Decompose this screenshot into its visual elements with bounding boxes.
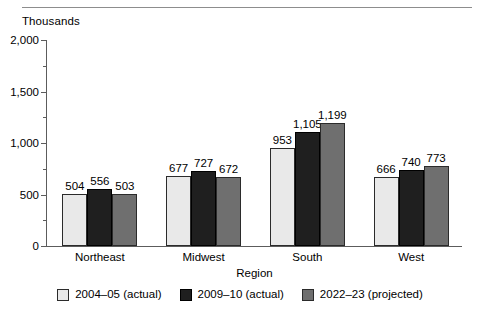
chart-legend: 2004–05 (actual)2009–10 (actual)2022–23 … bbox=[0, 288, 480, 301]
bar-value-label: 740 bbox=[402, 156, 421, 169]
y-tick-minor bbox=[43, 117, 47, 118]
x-axis-title: Region bbox=[47, 267, 462, 280]
category-label: Northeast bbox=[75, 250, 125, 264]
y-tick-major bbox=[41, 143, 47, 144]
category-label: West bbox=[398, 250, 424, 264]
bar[interactable]: 672 bbox=[216, 177, 241, 246]
legend-label: 2009–10 (actual) bbox=[198, 288, 284, 301]
legend-label: 2022–23 (projected) bbox=[320, 288, 423, 301]
x-axis-line bbox=[46, 246, 462, 247]
bar[interactable]: 727 bbox=[191, 171, 216, 246]
bar[interactable]: 773 bbox=[424, 166, 449, 246]
plot-area: 5045565036777276729531,1051,199666740773… bbox=[47, 40, 462, 246]
bar-value-label: 672 bbox=[219, 163, 238, 176]
y-tick-label: 1,000 bbox=[10, 137, 39, 149]
legend-item[interactable]: 2022–23 (projected) bbox=[302, 288, 423, 301]
bar-value-label: 953 bbox=[273, 134, 292, 147]
y-tick-label: 2,000 bbox=[10, 34, 39, 46]
y-tick-major bbox=[41, 195, 47, 196]
bar-group: 9531,1051,199 bbox=[270, 40, 345, 246]
y-tick-minor bbox=[43, 220, 47, 221]
y-tick-label: 500 bbox=[20, 189, 39, 201]
bar-group: 504556503 bbox=[62, 40, 137, 246]
top-divider-rule bbox=[22, 7, 472, 8]
legend-swatch-icon bbox=[302, 289, 314, 301]
category-label: Midwest bbox=[183, 250, 225, 264]
bar-value-label: 1,199 bbox=[318, 109, 347, 122]
y-tick-label: 0 bbox=[33, 240, 39, 252]
bar-value-label: 727 bbox=[194, 157, 213, 170]
bar-value-label: 504 bbox=[65, 180, 84, 193]
unit-label: Thousands bbox=[22, 15, 80, 28]
bar-value-label: 503 bbox=[115, 180, 134, 193]
y-axis-tick-labels: 05001,0001,5002,000 bbox=[0, 40, 39, 246]
legend-item[interactable]: 2004–05 (actual) bbox=[57, 288, 161, 301]
bar[interactable]: 740 bbox=[399, 170, 424, 246]
y-tick-label: 1,500 bbox=[10, 86, 39, 98]
y-tick-minor bbox=[43, 66, 47, 67]
bar[interactable]: 953 bbox=[270, 148, 295, 246]
bar[interactable]: 504 bbox=[62, 194, 87, 246]
bar[interactable]: 556 bbox=[87, 189, 112, 246]
y-tick-minor bbox=[43, 169, 47, 170]
bar[interactable]: 1,199 bbox=[320, 123, 345, 246]
y-tick-major bbox=[41, 246, 47, 247]
legend-label: 2004–05 (actual) bbox=[75, 288, 161, 301]
legend-item[interactable]: 2009–10 (actual) bbox=[180, 288, 284, 301]
bar[interactable]: 677 bbox=[166, 176, 191, 246]
bar[interactable]: 1,105 bbox=[295, 132, 320, 246]
legend-swatch-icon bbox=[57, 289, 69, 301]
bar-value-label: 556 bbox=[90, 175, 109, 188]
bar-group: 677727672 bbox=[166, 40, 241, 246]
bar-value-label: 666 bbox=[377, 163, 396, 176]
bar[interactable]: 503 bbox=[112, 194, 137, 246]
category-label: South bbox=[292, 250, 322, 264]
legend-swatch-icon bbox=[180, 289, 192, 301]
bar-value-label: 677 bbox=[169, 162, 188, 175]
bar-value-label: 773 bbox=[427, 152, 446, 165]
y-tick-major bbox=[41, 40, 47, 41]
y-tick-major bbox=[41, 92, 47, 93]
bar-group: 666740773 bbox=[374, 40, 449, 246]
bar-chart-figure: Thousands 05001,0001,5002,000 5045565036… bbox=[0, 0, 480, 311]
bar[interactable]: 666 bbox=[374, 177, 399, 246]
